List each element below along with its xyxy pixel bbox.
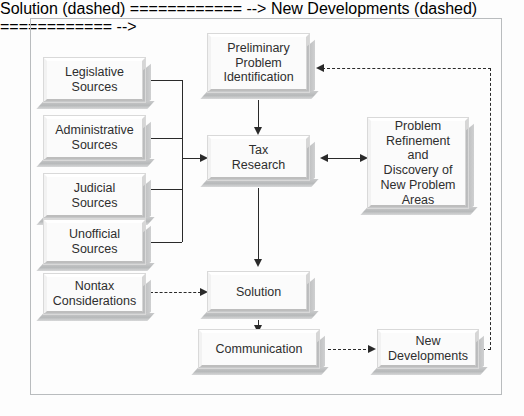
- node-label: Tax Research: [228, 143, 290, 173]
- node-label: Solution: [232, 285, 285, 300]
- node-new-developments: New Developments: [378, 330, 478, 368]
- node-label: Judicial Sources: [68, 181, 122, 211]
- connector-unofficial-stub: [148, 242, 182, 243]
- connector-nontax-to-solution: [150, 292, 201, 293]
- arrowhead-feedback-to-preliminary: [316, 64, 324, 72]
- node-label: New Developments: [384, 334, 472, 364]
- node-unofficial-sources: Unofficial Sources: [44, 220, 145, 264]
- connector-communication-to-new-developments: [328, 349, 371, 350]
- arrowhead-to-problem-refinement: [360, 154, 368, 162]
- node-judicial-sources: Judicial Sources: [44, 174, 145, 218]
- node-solution: Solution: [208, 272, 309, 312]
- connector-bus-to-tax-research: [182, 158, 201, 159]
- node-label: Legislative Sources: [61, 65, 128, 95]
- node-administrative-sources: Administrative Sources: [44, 116, 145, 160]
- node-preliminary-problem-identification: Preliminary Problem Identification: [208, 34, 309, 92]
- arrowhead-to-tax-research: [320, 154, 328, 162]
- arrowhead-bus-to-tax-research: [200, 154, 208, 162]
- node-label: Administrative Sources: [51, 123, 138, 153]
- connector-administrative-stub: [148, 138, 182, 139]
- node-problem-refinement: Problem Refinement and Discovery of New …: [368, 118, 468, 208]
- connector-legislative-stub: [148, 80, 182, 81]
- connector-tax-research-to-problem-refinement: [322, 158, 364, 159]
- connector-preliminary-to-tax-research: [258, 100, 259, 128]
- diagram-canvas: Legislative Sources Administrative Sourc…: [0, 0, 524, 416]
- connector-judicial-stub: [148, 189, 182, 190]
- arrowhead-tax-research-to-solution: [254, 259, 262, 267]
- connector-feedback-to-preliminary: [322, 68, 491, 69]
- node-nontax-considerations: Nontax Considerations: [44, 274, 145, 314]
- node-label: Nontax Considerations: [49, 279, 140, 309]
- node-label: Communication: [212, 342, 307, 357]
- node-communication: Communication: [199, 330, 319, 368]
- connector-tax-research-to-solution: [258, 188, 259, 260]
- node-tax-research: Tax Research: [208, 136, 309, 180]
- connector-sources-bus: [182, 80, 183, 242]
- node-legislative-sources: Legislative Sources: [44, 58, 145, 102]
- arrowhead-preliminary-to-tax-research: [254, 127, 262, 135]
- node-label: Preliminary Problem Identification: [219, 41, 297, 85]
- connector-feedback-vertical: [490, 68, 491, 350]
- arrowhead-nontax-to-solution: [200, 288, 208, 296]
- node-label: Unofficial Sources: [65, 227, 124, 257]
- node-label: Problem Refinement and Discovery of New …: [371, 119, 465, 208]
- arrowhead-communication-to-new-developments: [368, 345, 376, 353]
